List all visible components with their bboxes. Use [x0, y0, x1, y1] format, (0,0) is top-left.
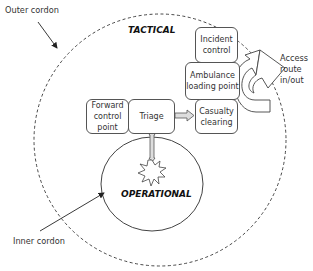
casualty-clearing-box: Casualty clearing: [195, 99, 238, 134]
outer-cordon-label: Outer cordon: [5, 5, 59, 15]
access-route-label: Access route in/out: [280, 53, 312, 86]
forward-control-box: Forward control point: [86, 99, 129, 134]
forward-control-label: Forward control point: [87, 100, 128, 133]
tactical-zone-label: TACTICAL: [128, 25, 176, 35]
triage-to-casualty-arrow: [175, 110, 194, 121]
operational-zone-label: OPERATIONAL: [121, 189, 192, 199]
operational-triage-arrow: [149, 131, 155, 162]
inner-cordon-label: Inner cordon: [13, 236, 65, 246]
outer-cordon-pointer: [38, 22, 57, 48]
ambulance-loading-label: Ambulance loading point: [186, 70, 239, 92]
incident-control-box: Incident control: [195, 27, 238, 63]
casualty-clearing-label: Casualty clearing: [196, 106, 237, 128]
diagram-canvas: [0, 0, 313, 271]
ambulance-loading-box: Ambulance loading point: [185, 62, 240, 100]
triage-box: Triage: [128, 99, 175, 134]
inner-cordon-pointer: [40, 193, 104, 231]
triage-label: Triage: [139, 111, 163, 122]
incident-control-label: Incident control: [196, 34, 237, 56]
